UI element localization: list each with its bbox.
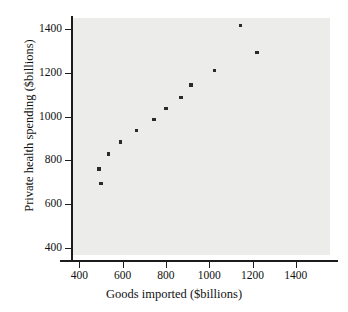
y-tick-mark (65, 204, 72, 205)
x-tick-mark (209, 262, 210, 268)
x-tick-label: 400 (59, 270, 99, 282)
y-tick-label: 400 (22, 242, 62, 254)
y-axis-title: Private health spending ($billions) (22, 11, 37, 241)
data-point (135, 129, 138, 132)
x-tick-mark (123, 262, 124, 268)
y-tick-mark (65, 248, 72, 249)
data-point (179, 96, 182, 99)
scatter-plot-figure: 400600800100012001400 400600800100012001… (0, 0, 348, 312)
y-tick-mark (65, 160, 72, 161)
data-point (97, 167, 100, 170)
x-tick-label: 1400 (276, 270, 316, 282)
y-tick-mark (65, 117, 72, 118)
x-tick-label: 600 (103, 270, 143, 282)
data-point (164, 107, 167, 110)
data-point (152, 118, 155, 121)
data-point (255, 51, 258, 54)
x-tick-label: 800 (146, 270, 186, 282)
data-point (99, 182, 102, 185)
y-tick-mark (65, 73, 72, 74)
data-point (119, 140, 122, 143)
data-point (107, 152, 110, 155)
y-tick-mark (65, 29, 72, 30)
x-tick-mark (296, 262, 297, 268)
data-point (239, 24, 242, 27)
plot-panel (72, 18, 330, 255)
y-axis-line (71, 16, 73, 262)
x-tick-mark (253, 262, 254, 268)
x-tick-mark (166, 262, 167, 268)
data-point (213, 69, 216, 72)
x-tick-mark (79, 262, 80, 268)
data-point (189, 83, 192, 86)
x-axis-title: Goods imported ($billions) (0, 287, 348, 302)
x-tick-label: 1000 (189, 270, 229, 282)
x-tick-label: 1200 (233, 270, 273, 282)
